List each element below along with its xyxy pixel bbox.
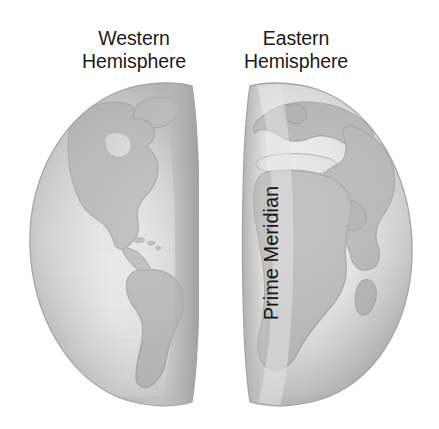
western-globe-graphic	[24, 80, 199, 410]
hemispheres-diagram: Western Hemisphere Eastern Hemisphere Pr…	[0, 0, 439, 429]
western-hemisphere-label: Western Hemisphere	[49, 27, 219, 73]
eastern-hemisphere-label-line1: Eastern	[211, 27, 381, 50]
western-hemisphere-label-line2: Hemisphere	[49, 50, 219, 73]
eastern-hemisphere-label-line2: Hemisphere	[211, 50, 381, 73]
eastern-hemisphere-label: Eastern Hemisphere	[211, 27, 381, 73]
western-globe-body	[24, 80, 199, 410]
western-hemisphere-globe	[24, 80, 199, 410]
prime-meridian-label: Prime Meridian	[261, 160, 281, 346]
western-hemisphere-label-line1: Western	[49, 27, 219, 50]
